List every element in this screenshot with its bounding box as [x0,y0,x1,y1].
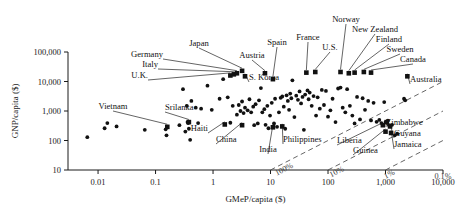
ratio-line-label-10%: 10% [328,164,346,179]
data-point [273,97,277,101]
country-label-Philippines: Philippines [283,134,322,144]
data-point [246,108,250,112]
data-point [308,91,312,95]
data-point [231,104,235,108]
y-tick-label-4: 100,000 [33,47,61,57]
data-point [324,89,328,93]
y-tick-label-2: 1,000 [42,106,61,116]
data-point [369,119,373,123]
data-point [341,106,345,110]
data-point [320,88,324,92]
data-point [310,104,314,108]
country-label-New Zealand: New Zealand [352,24,399,34]
data-point [355,95,359,99]
data-point [105,121,109,125]
scatter-chart-figure: 101001,00010,000100,0000.010.11101001,00… [0,0,458,209]
data-point [299,102,303,106]
x-axis-title: GMeP/capita ($) [225,194,285,204]
data-point [242,111,246,115]
data-point-marker-India [271,125,276,130]
data-point [326,115,330,119]
data-point [318,107,322,111]
data-point [265,104,269,108]
data-point [361,96,365,100]
data-point [268,114,272,118]
data-point [143,128,147,132]
leader-line-France [306,42,308,70]
data-point [287,108,291,112]
data-point-marker-Philippines [280,124,285,129]
leader-line-U.S. [315,52,330,69]
x-tick-label-0: 0.01 [91,177,106,187]
data-point [226,95,230,99]
data-point [289,96,293,100]
data-point [221,77,225,81]
data-point-marker-China [240,123,245,128]
country-label-U.S.: U.S. [322,42,337,52]
data-point [366,99,370,103]
data-point [85,135,89,139]
country-label-Guinea: Guinea [353,145,378,155]
data-point [343,110,347,114]
ratio-line-label-0.1%: 0.1% [434,172,451,181]
data-point [353,122,357,126]
data-point [290,78,294,82]
country-label-France: France [296,32,320,42]
data-point [285,93,289,97]
country-label-Germany: Germany [131,49,164,59]
chart-svg: 101001,00010,000100,0000.010.11101001,00… [0,0,458,209]
country-label-Haiti: Haiti [191,123,209,133]
data-point [270,101,274,105]
data-point [256,122,260,126]
data-point [334,120,338,124]
leader-line-New Zealand [349,34,375,71]
data-point [262,107,266,111]
leader-line-Haiti [208,122,225,133]
data-point [294,94,298,98]
data-point-marker-Germany [235,71,240,76]
data-point [298,90,302,94]
data-point [280,95,284,99]
data-point [235,113,239,117]
data-point-marker-Japan [240,69,245,74]
data-point-marker-Vietnam [165,125,170,130]
country-label-Norway: Norway [332,14,360,24]
leader-line-U.K. [148,73,230,80]
data-point-marker-Jamaica [389,131,394,136]
data-point [237,103,241,107]
leader-line-Vietnam [113,111,167,124]
data-point [296,98,300,102]
data-point [243,106,247,110]
x-tick-label-3: 10 [266,177,275,187]
ratio-line-label-100%: 100% [273,161,294,178]
leader-line-Japan [199,48,242,68]
data-point [372,101,376,105]
data-point-marker-Guyana [388,124,393,129]
data-point [302,128,306,132]
data-point-marker-Haiti [222,122,227,127]
data-point-marker-Guinea [383,129,388,134]
data-point [277,110,281,114]
country-label-Liberia: Liberia [337,135,362,145]
data-point [382,100,386,104]
data-point-marker-Australia [405,74,410,79]
data-point-marker-Spain [271,77,276,82]
data-point [345,87,349,91]
data-point [248,97,252,101]
data-point [288,92,292,96]
leader-line-Sweden [364,54,400,69]
leader-line-Canada [371,64,413,70]
country-label-Austria: Austria [239,50,264,60]
data-point-marker-New Zealand [347,71,352,76]
data-point [264,123,268,127]
data-point [183,130,187,134]
data-point [194,106,198,110]
data-point-marker-Norway [338,70,343,75]
country-label-Spain: Spain [267,37,287,47]
country-label-Finland: Finland [376,34,403,44]
data-point [181,87,185,91]
country-label-Sweden: Sweden [386,44,414,54]
data-point [254,102,258,106]
data-point-marker-Austria [263,71,268,76]
data-point [377,118,381,122]
